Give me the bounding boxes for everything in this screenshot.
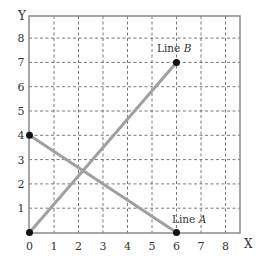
y-tick-label: 8 <box>18 32 25 45</box>
x-tick-label: 7 <box>198 240 205 253</box>
y-tick-label: 1 <box>18 202 25 215</box>
x-tick-label: 6 <box>173 240 180 253</box>
line-a-label: Line A <box>172 213 207 225</box>
y-tick-label: 2 <box>18 178 25 191</box>
x-tick-label: 1 <box>51 240 58 253</box>
x-tick-label: 4 <box>124 240 131 253</box>
y-tick-label: 7 <box>18 56 25 69</box>
data-point <box>26 132 33 139</box>
y-tick-label: 3 <box>18 154 25 167</box>
y-tick-label: 6 <box>18 81 25 94</box>
y-tick-label: 4 <box>18 129 25 142</box>
x-tick-label: 5 <box>149 240 156 253</box>
y-axis-label: Y <box>17 9 27 23</box>
x-tick-label: 3 <box>100 240 107 253</box>
data-point <box>173 59 180 66</box>
line-b-label: Line B <box>157 42 192 54</box>
x-axis-label: X <box>244 237 253 251</box>
plot-frame <box>29 16 240 233</box>
line-chart: 01234567812345678 Y X Line B Line A <box>0 0 260 260</box>
data-point <box>173 229 180 236</box>
x-tick-label: 0 <box>26 240 33 253</box>
x-tick-label: 2 <box>75 240 82 253</box>
y-tick-label: 5 <box>18 105 25 118</box>
grid <box>29 16 240 233</box>
data-point <box>26 229 33 236</box>
x-tick-label: 8 <box>222 240 229 253</box>
